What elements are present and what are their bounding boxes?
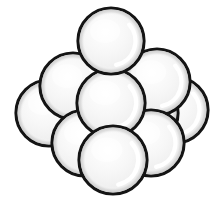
sphere-highlight-blob — [136, 60, 166, 84]
sphere-highlight-blob — [91, 138, 122, 162]
sphere-highlight-blob — [90, 19, 120, 43]
sphere-stack-canvas — [0, 0, 216, 200]
sphere-highlight-blob — [52, 64, 82, 88]
sphere-row1-top — [78, 8, 144, 74]
sphere-stack-figure — [0, 0, 216, 200]
sphere-front-bottom — [79, 126, 147, 194]
sphere-highlight-blob — [89, 81, 120, 105]
